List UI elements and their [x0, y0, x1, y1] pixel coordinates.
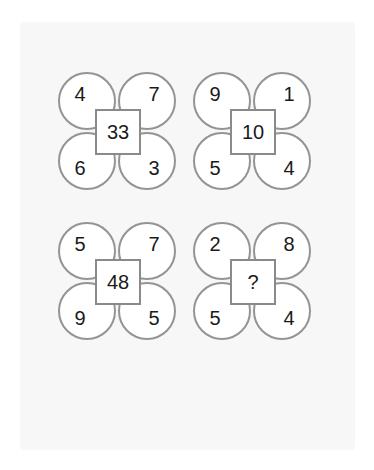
petal-value: 9	[74, 308, 85, 328]
center-value: 10	[242, 122, 264, 142]
flower-group-top-left: 4 7 6 3 33	[58, 72, 178, 192]
petal-value: 7	[148, 84, 159, 104]
flower-grid: 4 7 6 3 33 9 1 5	[20, 22, 355, 450]
center-value: 48	[107, 272, 129, 292]
center-square-unknown: ?	[230, 259, 276, 305]
petal-value: 7	[148, 234, 159, 254]
petal-value: 9	[209, 84, 220, 104]
puzzle-panel: 4 7 6 3 33 9 1 5	[20, 22, 355, 450]
center-value: 33	[107, 122, 129, 142]
flower-group-top-right: 9 1 5 4 10	[193, 72, 313, 192]
petal-value: 4	[283, 158, 294, 178]
petal-value: 3	[148, 158, 159, 178]
petal-value: 5	[74, 234, 85, 254]
unknown-value: ?	[247, 272, 258, 292]
petal-value: 5	[148, 308, 159, 328]
petal-value: 8	[283, 234, 294, 254]
petal-value: 2	[209, 234, 220, 254]
petal-value: 6	[74, 158, 85, 178]
petal-value: 5	[209, 308, 220, 328]
petal-value: 5	[209, 158, 220, 178]
center-square: 33	[95, 109, 141, 155]
center-square: 10	[230, 109, 276, 155]
petal-value: 4	[283, 308, 294, 328]
petal-value: 4	[74, 84, 85, 104]
petal-value: 1	[283, 84, 294, 104]
flower-group-bottom-left: 5 7 9 5 48	[58, 222, 178, 342]
center-square: 48	[95, 259, 141, 305]
flower-group-bottom-right: 2 8 5 4 ?	[193, 222, 313, 342]
